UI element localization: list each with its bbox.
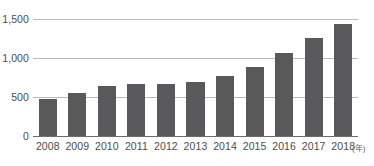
axis-baseline — [33, 136, 358, 137]
bar — [186, 82, 204, 136]
bar-slot — [39, 19, 57, 136]
bar — [39, 99, 57, 136]
bar — [68, 93, 86, 136]
x-axis-tick-label: 2015 — [240, 141, 270, 152]
bar — [305, 38, 323, 136]
x-axis-unit-annotation: (年) — [352, 144, 365, 153]
x-axis-tick-label: 2008 — [33, 141, 63, 152]
bar — [334, 24, 352, 136]
y-axis-tick-label: 1,000 — [0, 53, 29, 64]
bar-slot — [98, 19, 116, 136]
bar-chart-figure: 05001,0001,500 2008200920102011201220132… — [0, 0, 374, 166]
bar — [246, 67, 264, 136]
bar — [157, 84, 175, 136]
x-axis-tick-label: 2013 — [181, 141, 211, 152]
x-axis-tick-label: 2010 — [92, 141, 122, 152]
bar-slot — [186, 19, 204, 136]
bars-layer — [33, 19, 358, 136]
bar — [275, 53, 293, 136]
bar — [98, 86, 116, 136]
bar-slot — [275, 19, 293, 136]
bar-slot — [68, 19, 86, 136]
bar-slot — [127, 19, 145, 136]
x-axis-tick-label: 2014 — [210, 141, 240, 152]
y-axis-tick-label: 500 — [0, 92, 29, 103]
x-axis-tick-label: 2011 — [122, 141, 152, 152]
x-axis-tick-label: 2012 — [151, 141, 181, 152]
y-axis-tick-label: 1,500 — [0, 14, 29, 25]
plot-area — [33, 19, 358, 136]
x-axis-tick-label: 2009 — [63, 141, 93, 152]
bar-slot — [334, 19, 352, 136]
bar — [216, 76, 234, 136]
x-axis-tick-label: 2017 — [299, 141, 329, 152]
bar-slot — [157, 19, 175, 136]
bar-slot — [216, 19, 234, 136]
bar — [127, 84, 145, 136]
bar-slot — [246, 19, 264, 136]
x-axis-tick-label: 2016 — [269, 141, 299, 152]
y-axis-tick-label: 0 — [0, 131, 29, 142]
bar-slot — [305, 19, 323, 136]
